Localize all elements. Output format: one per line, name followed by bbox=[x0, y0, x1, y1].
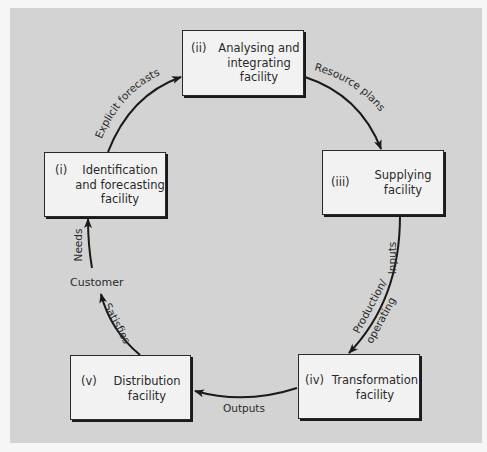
node-label: Analysing and integrating facility bbox=[217, 41, 301, 85]
arrow-outputs bbox=[195, 388, 297, 397]
node-label: Identification and forecasting facility bbox=[73, 163, 167, 207]
edge-label-needs: Needs bbox=[72, 229, 84, 262]
node-identification-forecasting: (i) Identification and forecasting facil… bbox=[44, 152, 166, 217]
node-label: Transformation facility bbox=[329, 373, 421, 402]
customer-label: Customer bbox=[70, 276, 123, 289]
node-transformation: (iv) Transformation facility bbox=[298, 354, 420, 419]
node-distribution: (v) Distribution facility bbox=[70, 355, 191, 420]
node-numeral: (iii) bbox=[331, 175, 350, 189]
node-label: Distribution facility bbox=[107, 374, 187, 403]
arrow-explicit-forecasts bbox=[108, 77, 181, 152]
node-numeral: (v) bbox=[81, 374, 97, 388]
edge-label-resource-plans: Resource plans bbox=[314, 60, 388, 113]
edge-label-outputs: Outputs bbox=[223, 402, 265, 414]
edge-label-satisfies: Satisfies bbox=[102, 301, 133, 346]
edge-label-inputs: Inputs bbox=[386, 242, 398, 275]
node-numeral: (ii) bbox=[191, 41, 206, 55]
edge-label-explicit-forecasts: Explicit forecasts bbox=[92, 66, 161, 140]
arrow-needs bbox=[88, 219, 92, 268]
node-label: Supplying facility bbox=[363, 168, 443, 197]
node-supplying: (iii) Supplying facility bbox=[322, 150, 444, 215]
node-analysing-integrating: (ii) Analysing and integrating facility bbox=[182, 30, 304, 96]
node-numeral: (iv) bbox=[305, 373, 324, 387]
node-numeral: (i) bbox=[55, 163, 67, 177]
